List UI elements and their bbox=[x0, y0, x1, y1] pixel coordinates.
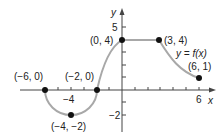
rising-segment bbox=[97, 40, 122, 90]
point-label-3-4: (3, 4) bbox=[164, 35, 187, 46]
x-axis-arrow-icon bbox=[209, 88, 216, 93]
point-label-6-1: (6, 1) bbox=[188, 61, 211, 72]
point-neg2-0 bbox=[94, 87, 100, 93]
point-neg6-0 bbox=[42, 87, 48, 93]
point-label-0-4: (0, 4) bbox=[90, 35, 113, 46]
tick-label-neg4: −4 bbox=[63, 94, 75, 105]
point-neg4-neg2 bbox=[68, 112, 74, 118]
point-6-1 bbox=[196, 75, 202, 81]
graph: y x 5 −2 −4 6 (−6, 0) (−2, 0) (−4, −2) (… bbox=[0, 0, 224, 139]
x-axis-label: x bbox=[207, 95, 214, 106]
tick-label-6: 6 bbox=[196, 94, 202, 105]
y-axis-arrow-icon bbox=[120, 8, 125, 15]
point-0-4 bbox=[119, 37, 125, 43]
y-axis-label: y bbox=[110, 7, 117, 18]
tick-label-5: 5 bbox=[112, 22, 118, 33]
point-label-neg2-0: (−2, 0) bbox=[65, 71, 94, 82]
point-label-neg6-0: (−6, 0) bbox=[14, 71, 43, 82]
function-label: y = f(x) bbox=[175, 48, 207, 59]
tick-label-neg2: −2 bbox=[109, 110, 121, 121]
point-label-neg4-neg2: (−4, −2) bbox=[51, 121, 86, 132]
point-3-4 bbox=[156, 37, 162, 43]
